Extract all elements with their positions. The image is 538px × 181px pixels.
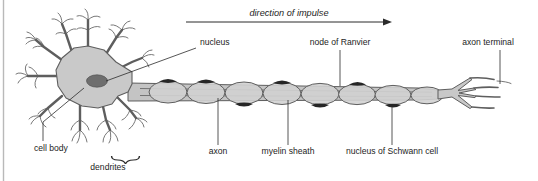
label-node-of-ranvier: node of Ranvier <box>310 37 371 47</box>
dendrite-twigs <box>109 21 135 38</box>
impulse-label: direction of impulse <box>249 8 328 18</box>
label-axon: axon <box>209 146 228 156</box>
dendrite-branch <box>36 40 62 60</box>
dendrite-twigs <box>29 108 55 127</box>
label-nucleus: nucleus <box>200 37 230 47</box>
dendrite-twigs <box>122 110 147 129</box>
myelin-segment <box>301 83 339 104</box>
axon-terminal-branch <box>476 96 500 97</box>
soma-group <box>56 46 132 108</box>
terminal-tip <box>497 81 511 84</box>
myelin-segment <box>187 82 225 104</box>
myelin-segment <box>225 82 263 104</box>
myelin-segment <box>263 83 301 105</box>
myelin-segment <box>375 85 411 104</box>
axon-terminal-branch <box>472 107 494 108</box>
neuron-diagram-canvas: direction of impulse nucleus node of Ran… <box>0 0 538 181</box>
myelin-segment <box>339 84 376 104</box>
dendrite-branch <box>62 24 72 52</box>
label-dendrites: dendrites <box>90 162 125 172</box>
axon-terminal-branch <box>438 78 476 109</box>
neuron-diagram-svg: direction of impulse nucleus node of Ran… <box>0 0 538 181</box>
axon-terminal-branch <box>470 78 494 80</box>
cell-nucleus <box>87 75 108 87</box>
myelin-sheath-group <box>149 81 443 105</box>
label-cell-body: cell body <box>34 143 69 153</box>
label-myelin-sheath: myelin sheath <box>261 146 314 156</box>
label-schwann-nucleus: nucleus of Schwann cell <box>346 146 438 156</box>
label-axon-terminal: axon terminal <box>462 37 514 47</box>
myelin-segment <box>149 81 187 103</box>
impulse-arrow-head <box>383 19 392 26</box>
dendrite-branch <box>40 96 62 116</box>
axon-terminal-branch <box>474 87 498 88</box>
impulse-arrow-group: direction of impulse <box>186 8 392 25</box>
